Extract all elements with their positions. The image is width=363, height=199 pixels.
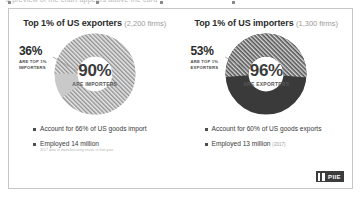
bullet-text: Account for 66% of US goods import xyxy=(40,125,171,133)
bullet-text: Employed 13 million (2017) xyxy=(212,140,343,148)
top-bleed-strip: a preview of the chart appears above the… xyxy=(0,0,363,7)
bullet-text: Employed 14 million xyxy=(40,140,171,148)
bleed-dot xyxy=(8,1,11,4)
piie-logo-badge: PIIE xyxy=(316,171,344,182)
callout-sublabel: ARE TOP 1% IMPORTERS xyxy=(19,59,71,70)
callout-percentage: 36% xyxy=(19,45,71,57)
bullet-text-note: (2017) xyxy=(272,142,285,147)
panel-title-firm-count: (2,200 firms) xyxy=(124,19,166,28)
bleed-dot xyxy=(96,1,99,4)
bullet-square-icon xyxy=(33,143,36,146)
bleed-preview-text: a preview of the chart appears above the… xyxy=(6,0,157,3)
callout-percentage: 53% xyxy=(191,45,243,57)
bullet-list-importers: Account for 60% of US goods exports Empl… xyxy=(205,125,343,154)
panel-title-firm-count: (1,300 firms) xyxy=(296,19,338,28)
piie-mark-icon xyxy=(318,173,325,181)
bullet-text-main: Employed 13 million xyxy=(212,140,271,147)
bullet-square-icon xyxy=(205,143,208,146)
chart-card: Top 1% of US exporters (2,200 firms) 90% xyxy=(8,8,353,189)
bullet-list-exporters: Account for 66% of US goods import Emplo… xyxy=(33,125,171,159)
callout-sublabel: ARE TOP 1% EXPORTERS xyxy=(191,59,243,70)
list-item: Employed 14 million 2017 data in manufac… xyxy=(33,140,171,153)
panel-title-main: Top 1% of US importers xyxy=(194,18,293,28)
list-item: Account for 66% of US goods import xyxy=(33,125,171,133)
panel-container: Top 1% of US exporters (2,200 firms) 90% xyxy=(9,9,352,188)
callout-importers: 53% ARE TOP 1% EXPORTERS xyxy=(191,45,243,70)
panel-exporters: Top 1% of US exporters (2,200 firms) 90% xyxy=(9,9,181,188)
piie-logo-text: PIIE xyxy=(328,174,341,180)
bullet-text: Account for 60% of US goods exports xyxy=(212,125,343,133)
list-item: Employed 13 million (2017) xyxy=(205,140,343,148)
panel-title-main: Top 1% of US exporters xyxy=(23,18,122,28)
list-item: Account for 60% of US goods exports xyxy=(205,125,343,133)
panel-title: Top 1% of US exporters (2,200 firms) xyxy=(9,18,181,28)
panel-title: Top 1% of US importers (1,300 firms) xyxy=(181,18,353,28)
bleed-dot xyxy=(160,1,163,4)
bleed-dot xyxy=(232,1,235,4)
bullet-square-icon xyxy=(33,128,36,131)
callout-exporters: 36% ARE TOP 1% IMPORTERS xyxy=(19,45,71,70)
bullet-square-icon xyxy=(205,128,208,131)
bullet-footnote: 2017 data in manufacturing sector in tha… xyxy=(40,148,171,152)
panel-importers: Top 1% of US importers (1,300 firms) 96% xyxy=(181,9,353,188)
